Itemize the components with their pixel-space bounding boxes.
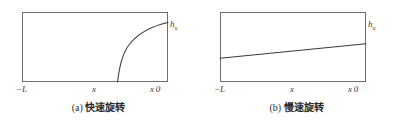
- caption-text-a: 快速旋转: [85, 102, 125, 113]
- caption-b: (b) 慢速旋转: [198, 99, 395, 114]
- curve-fast-rotation: [22, 12, 168, 82]
- axis-tick-right-b: x 0: [348, 83, 358, 95]
- caption-index-a: (a): [72, 102, 83, 113]
- curve-slow-rotation: [220, 12, 366, 82]
- caption-index-b: (b): [269, 102, 281, 113]
- h-label-b: hu: [368, 19, 376, 34]
- axis-tick-left-b: −L: [214, 83, 225, 95]
- axis-tick-right-a: x 0: [150, 83, 160, 95]
- axis-tick-left-a: −L: [16, 83, 27, 95]
- figure-container: hu −L x x 0 (a) 快速旋转 hu −L x x 0 (b) 慢速旋…: [0, 0, 395, 122]
- caption-text-b: 慢速旋转: [284, 102, 324, 113]
- axis-labels-a: −L x x 0: [0, 83, 197, 99]
- panel-b: hu −L x x 0 (b) 慢速旋转: [198, 0, 395, 122]
- axis-labels-b: −L x x 0: [198, 83, 395, 99]
- caption-a: (a) 快速旋转: [0, 99, 197, 114]
- panel-a: hu −L x x 0 (a) 快速旋转: [0, 0, 197, 122]
- h-subscript-a: u: [175, 25, 178, 31]
- axis-tick-mid-a: x: [92, 83, 96, 95]
- axis-tick-mid-b: x: [290, 83, 294, 95]
- h-subscript-b: u: [373, 25, 376, 31]
- h-label-a: hu: [170, 19, 178, 34]
